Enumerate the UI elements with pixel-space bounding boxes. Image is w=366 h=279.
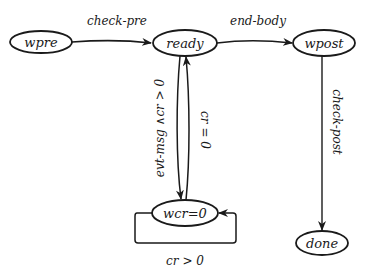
edge-evt-msg (177, 56, 181, 199)
state-ready: ready (153, 30, 217, 56)
state-wcr0: wcr=0 (152, 200, 218, 226)
state-done: done (296, 231, 348, 255)
edge-label-cr-gt-0: cr > 0 (166, 254, 204, 268)
state-label: done (306, 236, 339, 251)
edge-label-check-pre: check-pre (87, 14, 147, 28)
state-label: wpost (304, 36, 344, 51)
edge-label-check-post: check-post (330, 89, 344, 154)
state-label: wcr=0 (163, 206, 207, 221)
state-label: wpre (24, 35, 58, 50)
edge-end-body (217, 41, 292, 43)
edge-label-cr-eq-0: cr = 0 (198, 111, 212, 149)
state-wpost: wpost (293, 30, 355, 56)
edge-cr-eq-0 (186, 57, 189, 200)
edge-check-pre (72, 41, 151, 43)
edge-label-end-body: end-body (230, 14, 286, 28)
state-diagram: wpre ready wpost wcr=0 done check-pre en… (0, 0, 366, 279)
state-label: ready (166, 36, 204, 51)
edge-label-evt-msg: evt-msg ∧cr > 0 (153, 78, 167, 177)
state-wpre: wpre (10, 31, 72, 53)
